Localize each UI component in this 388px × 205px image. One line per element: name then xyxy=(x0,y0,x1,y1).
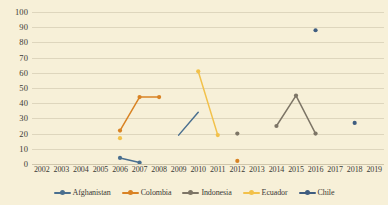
y-axis-tick-label: 60 xyxy=(0,69,28,78)
data-point xyxy=(196,69,200,73)
data-point xyxy=(137,160,141,164)
x-axis-tick-label: 2005 xyxy=(93,166,109,174)
x-axis-tick-label: 2010 xyxy=(190,166,206,174)
legend-label: Chile xyxy=(318,189,335,197)
data-point xyxy=(118,128,122,132)
legend-label: Ecuador xyxy=(262,189,288,197)
x-axis: 2002200320042005200620072008200920102011… xyxy=(32,166,384,179)
y-axis-tick-label: 90 xyxy=(0,23,28,32)
x-axis-tick-label: 2003 xyxy=(54,166,70,174)
x-axis-tick-label: 2004 xyxy=(73,166,89,174)
series-line xyxy=(120,158,140,163)
series-line xyxy=(198,71,218,135)
data-point xyxy=(235,132,239,136)
data-point xyxy=(157,95,161,99)
x-axis-tick-label: 2002 xyxy=(34,166,50,174)
legend-item-afghanistan[interactable]: Afghanistan xyxy=(54,189,111,197)
legend-label: Colombia xyxy=(141,189,172,197)
x-axis-tick-label: 2007 xyxy=(132,166,148,174)
x-axis-tick-label: 2011 xyxy=(210,166,225,174)
y-axis-tick-label: 20 xyxy=(0,129,28,138)
legend-marker-icon xyxy=(299,189,316,197)
series-line xyxy=(276,96,315,134)
y-axis: 0102030405060708090100 xyxy=(0,12,28,164)
legend-item-colombia[interactable]: Colombia xyxy=(122,189,172,197)
x-axis-tick-label: 2017 xyxy=(327,166,343,174)
data-point xyxy=(118,136,122,140)
series-line xyxy=(120,97,159,130)
line-chart: 0102030405060708090100 20022003200420052… xyxy=(0,0,388,205)
x-axis-tick-label: 2018 xyxy=(347,166,363,174)
x-axis-tick-label: 2006 xyxy=(112,166,128,174)
data-point xyxy=(313,132,317,136)
data-point xyxy=(137,95,141,99)
x-axis-tick-label: 2015 xyxy=(288,166,304,174)
data-point xyxy=(353,121,357,125)
data-point xyxy=(118,156,122,160)
legend-label: Indonesia xyxy=(201,189,231,197)
x-axis-tick-label: 2009 xyxy=(171,166,187,174)
legend-marker-icon xyxy=(54,189,71,197)
y-axis-tick-label: 0 xyxy=(0,160,28,169)
series-afghanistan xyxy=(118,112,198,164)
y-axis-tick-label: 10 xyxy=(0,145,28,154)
legend-label: Afghanistan xyxy=(73,189,111,197)
chart-legend: AfghanistanColombiaIndonesiaEcuadorChile xyxy=(0,186,388,200)
legend-marker-icon xyxy=(243,189,260,197)
legend-item-ecuador[interactable]: Ecuador xyxy=(243,189,288,197)
plot-area xyxy=(32,12,384,164)
data-point xyxy=(216,133,220,137)
legend-marker-icon xyxy=(182,189,199,197)
x-axis-tick-label: 2012 xyxy=(230,166,246,174)
data-series-layer xyxy=(32,12,384,164)
series-line xyxy=(179,112,199,135)
data-point xyxy=(313,28,317,32)
legend-marker-icon xyxy=(122,189,139,197)
x-axis-tick-label: 2013 xyxy=(249,166,265,174)
series-ecuador xyxy=(118,69,220,140)
data-point xyxy=(235,159,239,163)
legend-item-chile[interactable]: Chile xyxy=(299,189,335,197)
y-axis-tick-label: 100 xyxy=(0,8,28,17)
x-axis-tick-label: 2014 xyxy=(269,166,285,174)
series-indonesia xyxy=(235,94,317,136)
x-axis-tick-label: 2008 xyxy=(151,166,167,174)
x-axis-tick-label: 2016 xyxy=(308,166,324,174)
y-axis-tick-label: 50 xyxy=(0,84,28,93)
y-axis-tick-label: 80 xyxy=(0,38,28,47)
y-axis-tick-label: 40 xyxy=(0,99,28,108)
y-axis-tick-label: 70 xyxy=(0,53,28,62)
data-point xyxy=(294,94,298,98)
legend-item-indonesia[interactable]: Indonesia xyxy=(182,189,231,197)
series-colombia xyxy=(118,95,240,163)
y-axis-tick-label: 30 xyxy=(0,114,28,123)
series-chile xyxy=(313,28,356,125)
data-point xyxy=(274,124,278,128)
x-axis-tick-label: 2019 xyxy=(366,166,382,174)
